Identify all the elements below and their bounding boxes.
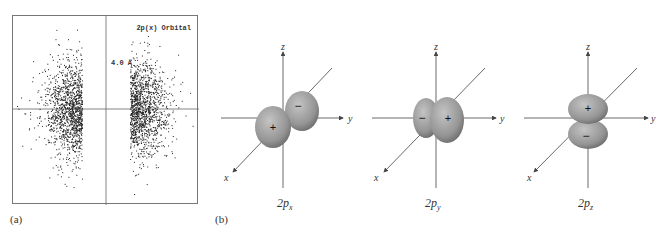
y-axis-label: y [650,113,656,124]
sign-minus: − [294,99,301,113]
x-axis-label: x [223,172,229,183]
orbital-label-2pz: 2pz [578,196,593,212]
figure-label-b: (b) [215,213,228,225]
orbital-2py-diagram: − + z y x [360,0,510,200]
dot-density-plot: 2p(x) Orbital 4.0 Å [12,15,198,204]
figure-label-a: (a) [10,213,22,225]
orbital-label-2px: 2px [277,196,293,212]
x-axis-label: x [526,172,532,183]
orbital-label-2py: 2py [425,196,441,212]
scale-label: 4.0 Å [111,59,132,67]
sign-plus: + [445,112,451,124]
sign-minus: − [582,129,589,143]
orbital-2px-diagram: + − z y x [215,0,365,200]
sign-plus: + [585,102,591,114]
sign-plus: + [270,121,276,133]
sign-minus: − [418,111,425,125]
y-axis-label: y [347,113,353,124]
orbital-2pz-diagram: + − z y x [500,0,664,200]
z-axis-label: z [280,41,285,52]
z-axis-label: z [585,41,590,52]
orbital-title: 2p(x) Orbital [136,24,191,32]
z-axis-label: z [433,41,438,52]
x-axis-label: x [373,172,379,183]
scatter-dots [13,16,199,205]
